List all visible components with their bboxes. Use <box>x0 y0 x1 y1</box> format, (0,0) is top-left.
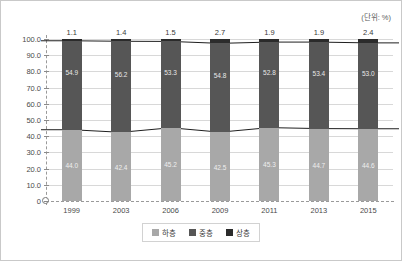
plot-area: 44.054.91.142.456.21.445.253.31.542.554.… <box>47 39 393 201</box>
bar-group[interactable]: 44.054.91.1 <box>62 39 82 201</box>
legend-swatch-icon <box>189 229 196 236</box>
bar-value-high: 1.4 <box>100 28 142 37</box>
bar-value-low: 44.7 <box>300 162 338 169</box>
x-axis-tick-label: 1999 <box>50 206 94 215</box>
y-axis-tick-mark <box>44 104 49 105</box>
y-axis-tick-label: 90.0 <box>26 51 41 60</box>
bar-value-high: 1.9 <box>248 28 290 37</box>
bar-value-low: 45.3 <box>250 161 288 168</box>
bar-group[interactable]: 45.253.31.5 <box>161 39 181 201</box>
y-axis-tick-label: 50.0 <box>26 116 41 125</box>
legend-item[interactable]: 하층 <box>152 227 176 238</box>
y-axis-tick-labels: 100.090.080.070.060.050.040.030.020.010.… <box>1 1 41 261</box>
bar-group[interactable]: 42.554.82.7 <box>210 39 230 201</box>
chart-container: (단위: %) 100.090.080.070.060.050.040.030.… <box>0 0 402 261</box>
x-axis-tick-label: 2015 <box>346 206 390 215</box>
y-axis-tick-label: 30.0 <box>26 148 41 157</box>
bar-segment-high[interactable] <box>161 39 181 41</box>
bar-segment-high[interactable] <box>358 39 378 43</box>
x-axis-tick-label: 2011 <box>247 206 291 215</box>
bar-value-high: 1.5 <box>150 28 192 37</box>
bar-segment-high[interactable] <box>111 39 131 41</box>
bar-segment-mid[interactable]: 54.9 <box>62 41 82 130</box>
legend-label: 중층 <box>199 227 213 238</box>
bar-value-mid: 54.8 <box>201 72 239 79</box>
y-axis-tick-label: 60.0 <box>26 99 41 108</box>
bar-segment-low[interactable]: 45.2 <box>161 128 181 201</box>
legend-swatch-icon <box>226 229 233 236</box>
y-axis-tick-mark <box>44 55 49 56</box>
bar-segment-high[interactable] <box>259 39 279 42</box>
legend-label: 하층 <box>162 227 176 238</box>
bar-segment-low[interactable]: 42.4 <box>111 132 131 201</box>
bar-value-low: 42.4 <box>102 164 140 171</box>
bar-value-low: 45.2 <box>152 161 190 168</box>
bar-segment-mid[interactable]: 53.3 <box>161 41 181 127</box>
bar-group[interactable]: 44.753.41.9 <box>309 39 329 201</box>
x-axis-tick-label: 2009 <box>198 206 242 215</box>
bar-value-high: 2.7 <box>199 28 241 37</box>
legend-label: 상층 <box>236 227 250 238</box>
bar-value-high: 1.9 <box>298 28 340 37</box>
bar-segment-low[interactable]: 42.5 <box>210 132 230 201</box>
y-axis-tick-label: 20.0 <box>26 164 41 173</box>
bar-value-mid: 53.3 <box>152 69 190 76</box>
bar-group[interactable]: 45.352.81.9 <box>259 39 279 201</box>
bar-value-mid: 53.4 <box>300 70 338 77</box>
y-axis-tick-mark <box>44 71 49 72</box>
y-axis-tick-mark <box>44 169 49 170</box>
unit-label: (단위: %) <box>361 11 391 22</box>
bar-segment-mid[interactable]: 52.8 <box>259 42 279 128</box>
legend-item[interactable]: 중층 <box>189 227 213 238</box>
x-axis-tick-label: 2003 <box>99 206 143 215</box>
y-axis-tick-mark <box>44 185 49 186</box>
bar-segment-mid[interactable]: 56.2 <box>111 41 131 132</box>
bar-segment-low[interactable]: 44.7 <box>309 129 329 201</box>
y-axis-tick-mark <box>44 152 49 153</box>
y-axis-tick-mark <box>44 201 49 202</box>
x-axis-tick-label: 2006 <box>149 206 193 215</box>
bar-group[interactable]: 44.653.02.4 <box>358 39 378 201</box>
bar-value-mid: 56.2 <box>102 71 140 78</box>
y-axis-tick-mark <box>44 88 49 89</box>
y-axis-tick-label: 70.0 <box>26 83 41 92</box>
y-axis-tick-label: 100.0 <box>22 35 41 44</box>
y-axis-tick-label: 40.0 <box>26 132 41 141</box>
bar-value-low: 42.5 <box>201 164 239 171</box>
bar-value-low: 44.0 <box>53 162 91 169</box>
y-axis-tick-mark <box>44 120 49 121</box>
y-axis-tick-label: 80.0 <box>26 67 41 76</box>
bar-segment-low[interactable]: 44.6 <box>358 129 378 201</box>
y-axis-tick-label: 10.0 <box>26 180 41 189</box>
bar-value-mid: 54.9 <box>53 69 91 76</box>
bar-segment-high[interactable] <box>210 39 230 43</box>
legend-item[interactable]: 상층 <box>226 227 250 238</box>
y-axis-tick-mark <box>44 136 49 137</box>
y-axis-tick-label: 0 <box>37 197 41 206</box>
bar-value-mid: 53.0 <box>349 70 387 77</box>
bar-segment-mid[interactable]: 53.0 <box>358 43 378 129</box>
bar-value-high: 2.4 <box>347 28 389 37</box>
bar-segment-high[interactable] <box>309 39 329 42</box>
bar-segment-high[interactable] <box>62 39 82 41</box>
bar-value-low: 44.6 <box>349 162 387 169</box>
bar-segment-mid[interactable]: 53.4 <box>309 42 329 129</box>
chart-legend: 하층중층상층 <box>142 223 260 242</box>
x-axis-tick-label: 2013 <box>297 206 341 215</box>
bar-value-high: 1.1 <box>51 28 93 37</box>
bar-value-mid: 52.8 <box>250 69 288 76</box>
bar-group[interactable]: 42.456.21.4 <box>111 39 131 201</box>
bar-segment-low[interactable]: 45.3 <box>259 128 279 201</box>
bar-segment-low[interactable]: 44.0 <box>62 130 82 201</box>
legend-swatch-icon <box>152 229 159 236</box>
bar-segment-mid[interactable]: 54.8 <box>210 43 230 132</box>
y-axis-tick-mark <box>44 39 49 40</box>
x-axis-line <box>46 201 394 202</box>
